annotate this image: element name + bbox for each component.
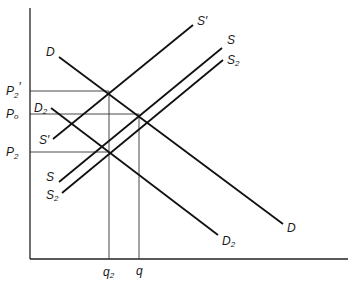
supply-curve-s-prime [53, 25, 193, 139]
label-q: q [136, 264, 143, 278]
label-p2-prime: P2′ [6, 80, 21, 100]
label-d2-start: D2 [34, 101, 48, 116]
demand-curve-d2 [51, 108, 218, 235]
label-s2-start: S2 [46, 188, 59, 203]
label-d2-end: D2 [222, 234, 236, 249]
label-s2-end: S2 [227, 53, 240, 68]
label-s-prime-start: S′ [39, 133, 50, 147]
label-d-start: D [46, 45, 55, 59]
label-p2: P2 [6, 145, 19, 161]
label-q2: q2 [103, 265, 115, 280]
label-s-prime-end: S′ [197, 14, 208, 28]
supply-curve-s2 [62, 60, 223, 193]
supply-demand-diagram: P2′ Po P2 q2 q D D D2 D2 S′ S′ S S S2 S2 [0, 0, 355, 281]
label-s-end: S [227, 33, 235, 47]
label-p0: Po [6, 107, 19, 121]
label-d-end: D [287, 221, 296, 235]
label-s-start: S [46, 170, 54, 184]
